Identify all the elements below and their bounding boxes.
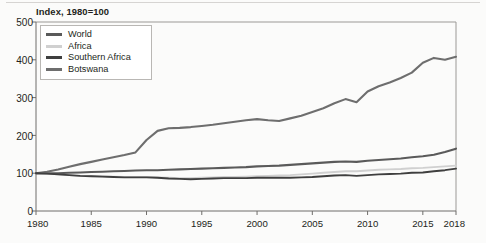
x-tick-label: 2000 [246, 218, 267, 229]
x-tick-label: 1985 [81, 218, 102, 229]
x-tick-label: 2005 [302, 218, 323, 229]
x-tick-label: 2018 [444, 218, 465, 229]
y-tick-label: 300 [16, 93, 33, 104]
x-tick-label: 2015 [412, 218, 433, 229]
legend-label-africa: Africa [68, 41, 92, 52]
chart-figure: Index, 1980=100 500 400 300 200 100 0 19… [0, 0, 486, 243]
top-divider-rule [6, 2, 480, 3]
y-tick-label: 400 [16, 55, 33, 66]
legend-item-botswana: Botswana [46, 64, 146, 76]
legend-label-southern-africa: Southern Africa [68, 52, 131, 63]
y-tick-label: 200 [16, 131, 33, 142]
y-tick-label: 100 [16, 168, 33, 179]
legend-swatch-world [46, 33, 62, 36]
x-tick-label: 2010 [357, 218, 378, 229]
x-tick-label: 1995 [191, 218, 212, 229]
legend-item-africa: Africa [46, 41, 146, 53]
y-tick-label: 500 [16, 17, 33, 28]
legend-swatch-africa [46, 45, 62, 48]
x-tick-label: 1980 [27, 218, 48, 229]
x-tick-label: 1990 [136, 218, 157, 229]
legend-swatch-southern-africa [46, 56, 62, 59]
y-tick-label: 0 [27, 206, 33, 217]
legend-label-world: World [68, 29, 92, 40]
legend-item-southern-africa: Southern Africa [46, 52, 146, 64]
legend-swatch-botswana [46, 68, 62, 71]
chart-legend: World Africa Southern Africa Botswana [40, 25, 152, 80]
legend-label-botswana: Botswana [68, 64, 108, 75]
y-axis-labels: 500 400 300 200 100 0 [0, 0, 33, 243]
y-axis-title: Index, 1980=100 [36, 6, 109, 17]
legend-item-world: World [46, 29, 146, 41]
